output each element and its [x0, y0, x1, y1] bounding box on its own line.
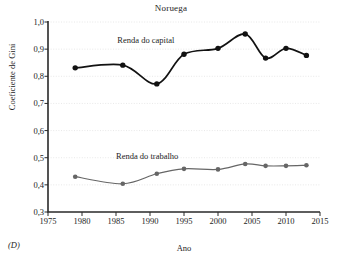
data-point-marker	[243, 31, 248, 36]
data-point-marker	[155, 171, 160, 176]
data-point-marker	[181, 52, 186, 57]
data-point-marker	[182, 167, 187, 172]
data-point-marker	[304, 53, 309, 58]
data-point-marker	[283, 46, 288, 51]
axis-lines	[48, 21, 320, 212]
data-point-marker	[120, 62, 125, 67]
data-point-marker	[216, 167, 221, 172]
data-point-marker	[263, 164, 268, 169]
data-point-marker	[304, 163, 309, 168]
series-line	[75, 164, 306, 184]
data-point-marker	[263, 55, 268, 60]
series-label: Renda do trabalho	[116, 151, 178, 161]
x-axis-label: Ano	[48, 243, 320, 253]
panel-letter: (D)	[8, 240, 20, 250]
figure-panel: Noruega Coeficiente de Gini 0,30,40,50,6…	[0, 0, 342, 266]
data-point-marker	[284, 164, 289, 169]
data-point-marker	[215, 46, 220, 51]
data-point-marker	[243, 162, 248, 167]
series-label: Renda do capital	[117, 35, 174, 45]
data-point-marker	[154, 81, 159, 86]
data-point-marker	[73, 65, 78, 70]
data-point-marker	[73, 174, 78, 179]
data-point-marker	[121, 181, 126, 186]
